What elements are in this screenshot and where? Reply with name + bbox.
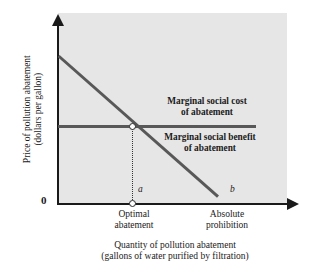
x-tick-label-optimal-abatement-line1: Optimal xyxy=(88,209,180,220)
marginal-social-cost-curve xyxy=(58,125,256,128)
x-axis-caption-line2: (gallons of water purified by filtration… xyxy=(40,251,310,262)
msb-curve-label-line1: Marginal social benefit xyxy=(150,132,270,143)
origin-label: 0 xyxy=(41,194,47,207)
x-axis-caption-line1: Quantity of pollution abatement xyxy=(40,240,310,251)
y-axis-arrow-icon xyxy=(52,14,64,26)
point-a-label: a xyxy=(138,184,143,195)
msc-curve-label: Marginal social cost of abatement xyxy=(148,96,266,118)
x-axis-arrow-icon xyxy=(287,198,299,210)
equilibrium-point-marker xyxy=(129,123,136,130)
msb-curve-label-line2: of abatement xyxy=(150,143,270,154)
pollution-abatement-diagram: Price of pollution abatement (dollars pe… xyxy=(0,0,316,269)
x-tick-label-absolute-prohibition-line1: Absolute xyxy=(181,209,273,220)
x-tick-label-absolute-prohibition: Absolute prohibition xyxy=(181,209,273,231)
x-axis-line xyxy=(57,203,289,205)
y-axis-title-line1: Price of pollution abatement xyxy=(22,14,33,204)
y-axis-title-line2: (dollars per gallon) xyxy=(33,14,44,204)
x-axis-caption: Quantity of pollution abatement (gallons… xyxy=(40,240,310,262)
point-b-label: b xyxy=(230,184,235,195)
optimal-quantity-marker xyxy=(129,200,136,207)
x-tick-label-absolute-prohibition-line2: prohibition xyxy=(181,220,273,231)
y-axis-title: Price of pollution abatement (dollars pe… xyxy=(22,14,44,204)
optimal-quantity-guideline xyxy=(132,128,133,204)
msc-curve-label-line1: Marginal social cost xyxy=(148,96,266,107)
y-axis-line xyxy=(57,24,59,205)
msc-curve-label-line2: of abatement xyxy=(148,107,266,118)
x-tick-label-optimal-abatement: Optimal abatement xyxy=(88,209,180,231)
x-tick-label-optimal-abatement-line2: abatement xyxy=(88,220,180,231)
msb-curve-label: Marginal social benefit of abatement xyxy=(150,132,270,154)
